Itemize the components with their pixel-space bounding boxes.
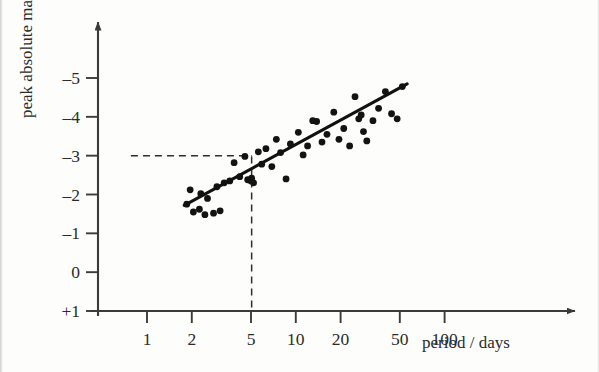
trend-line-layer [184, 84, 407, 206]
y-axis-label: peak absolute magnitude [17, 0, 36, 118]
data-point [370, 117, 377, 124]
period-luminosity-scatter-chart: –5–4–3–2–10+1 125102050100 period / days… [0, 0, 599, 372]
y-tick-label: –4 [62, 107, 81, 127]
figure-root: –5–4–3–2–10+1 125102050100 period / days… [0, 0, 599, 372]
y-tick-label: 0 [71, 262, 80, 282]
axes-layer [90, 22, 575, 316]
x-axis-label: period / days [422, 333, 510, 352]
data-point [187, 186, 194, 193]
data-point [300, 151, 307, 158]
data-point [360, 128, 367, 135]
data-point [363, 138, 370, 145]
scan-edge-artifact-left [0, 0, 3, 372]
data-point [202, 211, 209, 218]
data-point [295, 129, 302, 136]
data-point [273, 136, 280, 143]
data-point [268, 163, 275, 170]
data-point [319, 139, 326, 146]
data-point [242, 153, 249, 160]
data-point [324, 131, 331, 138]
x-tick-label: 20 [332, 329, 350, 349]
x-tick-label: 10 [287, 329, 305, 349]
data-point [283, 176, 290, 183]
data-point [263, 145, 270, 152]
y-tick-label: –3 [62, 146, 81, 166]
data-point [217, 207, 224, 214]
x-tick-label: 5 [247, 329, 256, 349]
y-tick-label: –1 [62, 223, 81, 243]
data-point [340, 125, 347, 132]
best-fit-trend-line [184, 84, 407, 206]
data-point [196, 206, 203, 213]
data-point [375, 105, 382, 112]
y-axis-ticks: –5–4–3–2–10+1 [61, 68, 98, 321]
data-point [346, 143, 353, 150]
data-point [352, 93, 359, 100]
data-point [210, 210, 217, 217]
x-axis-ticks: 125102050100 [143, 311, 458, 349]
data-point [231, 159, 238, 166]
data-point [330, 109, 337, 116]
x-tick-label: 2 [187, 329, 196, 349]
y-tick-label: –5 [62, 68, 81, 88]
data-point [394, 115, 401, 122]
data-point [313, 118, 320, 125]
data-point [250, 179, 257, 186]
y-tick-label: +1 [61, 301, 80, 321]
y-tick-label: –2 [62, 185, 81, 205]
data-point [358, 111, 365, 118]
x-tick-label: 1 [143, 329, 152, 349]
data-point [388, 110, 395, 117]
data-point [255, 148, 262, 155]
data-point [304, 143, 311, 150]
data-point [190, 209, 197, 216]
data-point [204, 195, 211, 202]
data-point [336, 136, 343, 143]
x-tick-label: 50 [391, 329, 409, 349]
